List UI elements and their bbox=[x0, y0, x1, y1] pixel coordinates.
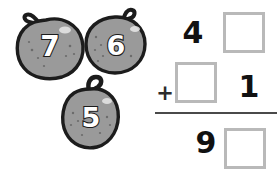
addend1-tens-digit: 4 bbox=[176, 18, 210, 48]
apple-six-digit: 6 bbox=[107, 30, 126, 61]
apple-five: 5 bbox=[52, 73, 130, 155]
apple-five-digit: 5 bbox=[82, 102, 101, 133]
apple-seven-digit: 7 bbox=[40, 30, 59, 63]
addend1-ones-answer-box[interactable] bbox=[223, 12, 265, 53]
total-tens-digit: 9 bbox=[189, 128, 223, 158]
addition-problem: 4 + 1 9 bbox=[145, 0, 280, 177]
addend2-ones-digit: 1 bbox=[232, 72, 266, 102]
apple-seven-highlight bbox=[59, 27, 71, 34]
plus-operator: + bbox=[156, 83, 174, 104]
sum-divider-line bbox=[155, 112, 277, 114]
apple-five-highlight bbox=[102, 98, 112, 104]
total-ones-answer-box[interactable] bbox=[224, 128, 266, 169]
apple-six-highlight bbox=[130, 26, 140, 32]
addend2-tens-answer-box[interactable] bbox=[175, 62, 217, 103]
apples-panel: 7 6 bbox=[0, 0, 145, 177]
worksheet: 7 6 bbox=[0, 0, 280, 177]
apple-six: 6 bbox=[79, 4, 151, 80]
